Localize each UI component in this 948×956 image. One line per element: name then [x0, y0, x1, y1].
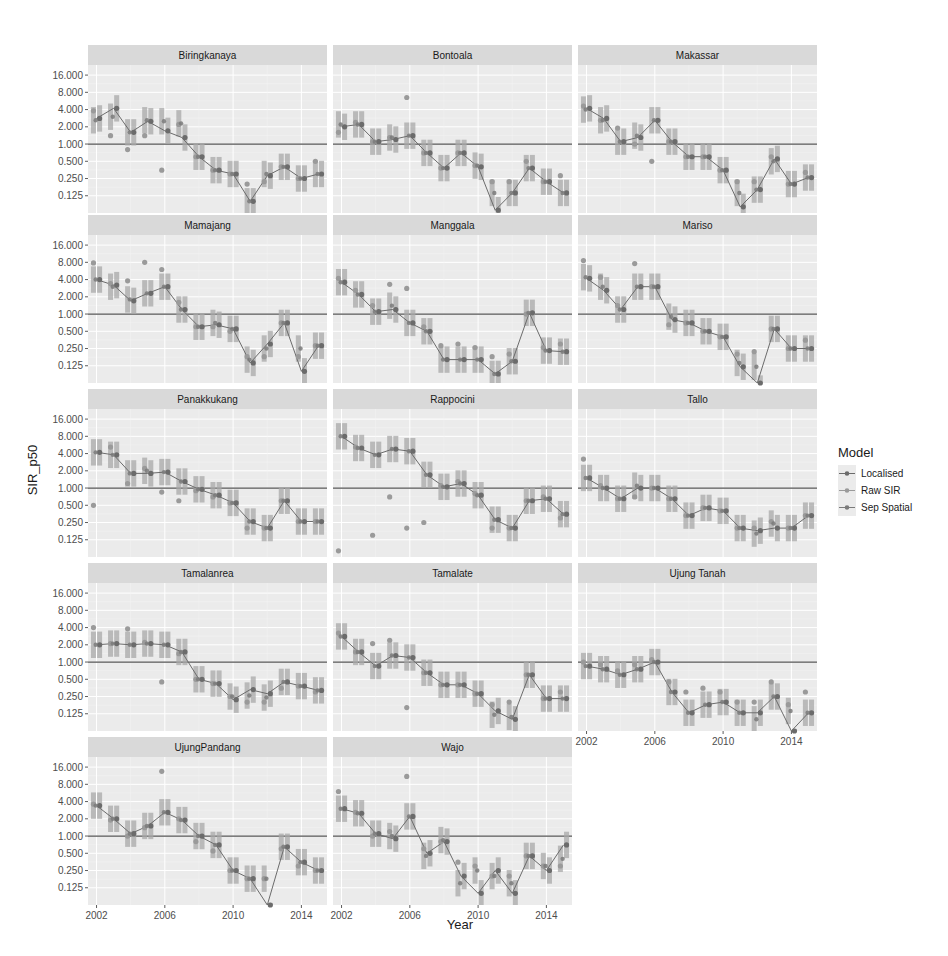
point-sep-spatial	[492, 518, 496, 522]
point-raw-sir	[421, 324, 426, 329]
point-sep-spatial	[526, 499, 530, 503]
point-sep-spatial	[526, 854, 530, 858]
point-raw-sir	[752, 699, 757, 704]
point-sep-spatial	[458, 151, 462, 155]
point-raw-sir	[490, 525, 495, 530]
panel-manggala: Manggala	[333, 215, 572, 383]
point-sep-spatial	[509, 881, 513, 885]
point-sep-spatial	[390, 653, 394, 657]
point-sep-spatial	[356, 122, 360, 126]
point-raw-sir	[507, 699, 512, 704]
point-sep-spatial	[356, 292, 360, 296]
point-raw-sir	[91, 625, 96, 630]
point-raw-sir	[370, 641, 375, 646]
panel-background	[88, 235, 327, 383]
point-sep-spatial	[543, 696, 547, 700]
y-tick-label: 0.500	[58, 674, 83, 685]
point-raw-sir	[558, 689, 563, 694]
panel-background	[578, 65, 817, 213]
point-localised	[758, 380, 763, 385]
point-sep-spatial	[390, 834, 394, 838]
panel-panakkukang: Panakkukang16.0008.0004.0002.0001.0000.5…	[52, 389, 327, 557]
point-sep-spatial	[737, 526, 741, 530]
point-raw-sir	[108, 444, 113, 449]
point-sep-spatial	[788, 709, 792, 713]
point-sep-spatial	[230, 501, 234, 505]
point-localised	[427, 851, 432, 856]
point-sep-spatial	[111, 817, 115, 821]
point-raw-sir	[91, 503, 96, 508]
point-sep-spatial	[458, 357, 462, 361]
legend-label-localised: Localised	[861, 468, 903, 479]
point-sep-spatial	[424, 329, 428, 333]
strip-label: UjungPandang	[174, 742, 240, 753]
point-sep-spatial	[424, 151, 428, 155]
point-raw-sir	[91, 108, 96, 113]
strip-label: Ujung Tanah	[670, 568, 726, 579]
legend-title: Model	[838, 445, 874, 460]
point-raw-sir	[159, 267, 164, 272]
y-tick-label: 4.000	[58, 104, 83, 115]
point-sep-spatial	[424, 854, 428, 858]
point-raw-sir	[387, 282, 392, 287]
point-sep-spatial	[128, 831, 132, 835]
point-sep-spatial	[356, 811, 360, 815]
point-sep-spatial	[458, 683, 462, 687]
point-sep-spatial	[196, 834, 200, 838]
point-raw-sir	[666, 679, 671, 684]
y-tick-label: 0.500	[58, 500, 83, 511]
point-sep-spatial	[441, 838, 445, 842]
point-sep-spatial	[145, 641, 149, 645]
y-tick-label: 1.000	[58, 483, 83, 494]
point-raw-sir	[507, 179, 512, 184]
point-sep-spatial	[737, 361, 741, 365]
point-raw-sir	[683, 689, 688, 694]
point-raw-sir	[336, 548, 341, 553]
y-tick-label: 0.500	[58, 326, 83, 337]
point-sep-spatial	[407, 449, 411, 453]
y-tick-label: 0.125	[58, 534, 83, 545]
point-raw-sir	[558, 173, 563, 178]
point-sep-spatial	[601, 285, 605, 289]
panel-mariso: Mariso	[578, 215, 817, 386]
point-raw-sir	[262, 179, 267, 184]
point-sep-spatial	[509, 191, 513, 195]
point-sep-spatial	[93, 643, 97, 647]
point-sep-spatial	[145, 118, 149, 122]
point-sep-spatial	[805, 711, 809, 715]
point-sep-spatial	[281, 321, 285, 325]
panel-rappocini: Rappocini	[333, 389, 572, 557]
point-sep-spatial	[128, 471, 132, 475]
point-localised	[234, 697, 239, 702]
point-sep-spatial	[338, 122, 342, 126]
legend-item-sep-spatial: Sep Spatial	[838, 499, 912, 516]
point-raw-sir	[735, 699, 740, 704]
x-axis-title: Year	[447, 917, 474, 932]
y-tick-label: 2.000	[58, 639, 83, 650]
point-sep-spatial	[458, 881, 462, 885]
point-sep-spatial	[669, 690, 673, 694]
point-sep-spatial	[356, 650, 360, 654]
y-tick-label: 0.250	[58, 691, 83, 702]
point-sep-spatial	[264, 876, 268, 880]
point-localised	[393, 307, 398, 312]
point-sep-spatial	[652, 285, 656, 289]
point-sep-spatial	[373, 139, 377, 143]
point-sep-spatial	[601, 667, 605, 671]
point-sep-spatial	[754, 531, 758, 535]
point-localised	[672, 317, 677, 322]
point-sep-spatial	[475, 692, 479, 696]
point-sep-spatial	[390, 447, 394, 451]
point-sep-spatial	[315, 172, 319, 176]
point-raw-sir	[700, 686, 705, 691]
point-sep-spatial	[264, 346, 268, 350]
point-sep-spatial	[162, 470, 166, 474]
y-tick-label: 8.000	[58, 779, 83, 790]
panel-background	[88, 65, 327, 213]
y-tick-label: 8.000	[58, 605, 83, 616]
point-sep-spatial	[93, 277, 97, 281]
point-localised	[148, 119, 153, 124]
point-sep-spatial	[298, 176, 302, 180]
point-sep-spatial	[788, 526, 792, 530]
point-sep-spatial	[458, 481, 462, 485]
